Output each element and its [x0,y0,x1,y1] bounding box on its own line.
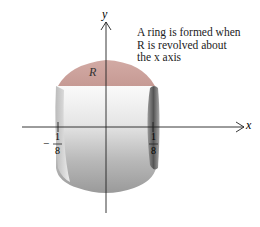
tick-label-left-sign: − [43,137,49,149]
tick-label-right-numerator: 1 [151,131,156,142]
caption-line-1: A ring is formed when [137,26,240,39]
tick-label-left-denominator: 8 [55,145,60,156]
region-label: R [89,65,96,80]
caption-line-3: the x axis [137,51,240,64]
x-axis-label: x [246,118,251,133]
caption-line-2: R is revolved about [137,39,240,52]
tick-label-left-numerator: 1 [55,131,60,142]
tick-label-right-denominator: 8 [151,145,156,156]
ring-solid [55,86,159,193]
y-axis-label: y [102,7,107,22]
region-r [58,60,155,86]
caption: A ring is formed when R is revolved abou… [137,26,240,64]
